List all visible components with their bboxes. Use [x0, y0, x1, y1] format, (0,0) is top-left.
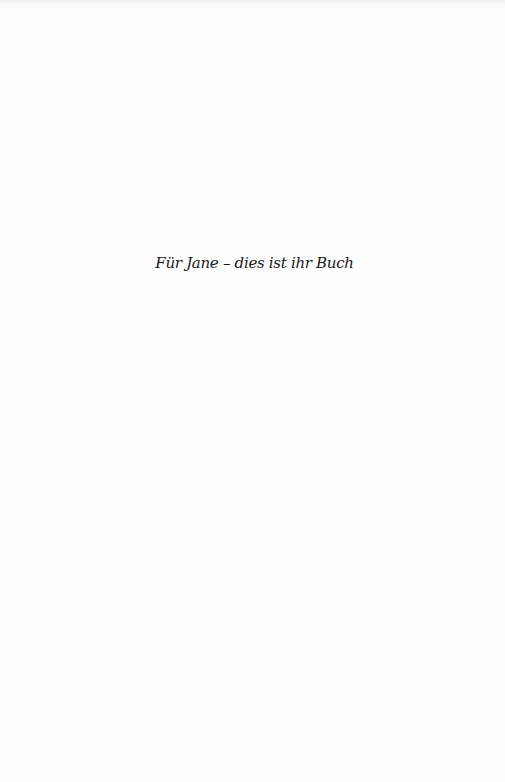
page-top-edge	[0, 0, 505, 10]
dedication-text: Für Jane – dies ist ihr Buch	[0, 254, 505, 272]
book-page: Für Jane – dies ist ihr Buch	[0, 0, 505, 782]
